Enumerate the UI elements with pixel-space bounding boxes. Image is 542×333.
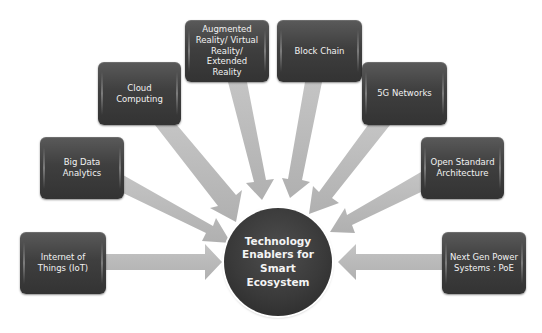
hub-label: Technology Enablers for Smart Ecosystem <box>234 235 322 290</box>
node-blockchain: Block Chain <box>277 20 362 82</box>
node-blockchain-label: Block Chain <box>295 46 345 57</box>
node-bigdata-label: Big Data Analytics <box>49 157 115 178</box>
node-5g: 5G Networks <box>362 62 447 125</box>
node-poe-label: Next Gen Power Systems : PoE <box>447 252 521 273</box>
diagram-canvas: Internet of Things (IoT) Big Data Analyt… <box>0 0 542 333</box>
arrow-iot <box>105 244 222 280</box>
node-cloud: Cloud Computing <box>98 62 181 125</box>
node-arvr-label: Augmented Reality/ Virtual Reality/ Exte… <box>191 24 263 77</box>
node-poe: Next Gen Power Systems : PoE <box>442 232 526 294</box>
arrow-poe <box>338 244 442 280</box>
node-iot: Internet of Things (IoT) <box>20 232 106 294</box>
arrow-blockchain <box>282 82 322 198</box>
node-openstd-label: Open Standard Architecture <box>430 157 495 178</box>
node-bigdata: Big Data Analytics <box>40 137 124 199</box>
arrow-arvr <box>228 82 274 200</box>
node-iot-label: Internet of Things (IoT) <box>29 252 97 273</box>
node-openstd: Open Standard Architecture <box>421 137 504 199</box>
node-5g-label: 5G Networks <box>377 88 432 99</box>
node-arvr: Augmented Reality/ Virtual Reality/ Exte… <box>185 20 269 82</box>
node-cloud-label: Cloud Computing <box>107 83 172 104</box>
hub-circle: Technology Enablers for Smart Ecosystem <box>224 208 332 316</box>
